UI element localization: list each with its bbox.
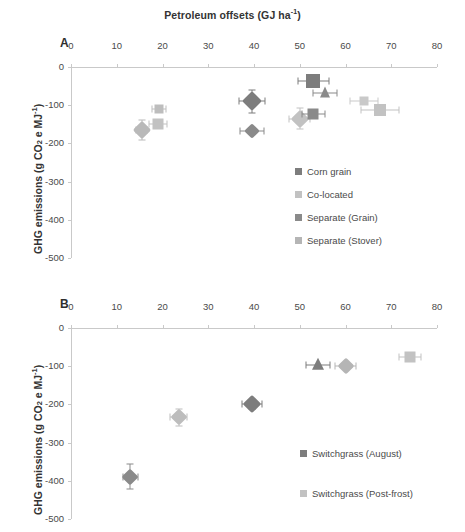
data-point-square[interactable] [308,108,319,119]
panel-a-x-tick-label: 60 [331,40,361,51]
legend-item[interactable]: Switchgrass (August) [300,433,413,473]
panel-a-legend: Corn grainCo-locatedSeparate (Grain)Sepa… [295,160,382,252]
data-point-square[interactable] [152,119,163,130]
panel-a-y-tick [68,143,71,144]
panel-b-y-axis [71,328,72,519]
panel-a-y-tick [68,220,71,221]
panel-a-y-axis [71,67,72,258]
panel-b-y-tick-label: -100 [30,360,64,371]
error-bar-cap [398,354,399,361]
data-point-square[interactable] [404,352,415,363]
panel-b-x-tick [117,325,118,328]
error-bar-cap [313,89,314,96]
panel-a-y-tick-label: -100 [30,99,64,110]
legend-swatch [295,168,302,175]
panel-a-x-tick [208,64,209,67]
panel-b-x-tick [163,325,164,328]
panel-b-x-tick-label: 10 [102,301,132,312]
panel-a-x-tick-label: 70 [376,40,406,51]
error-bar-cap [240,127,241,134]
data-point-diamond[interactable] [243,395,261,413]
panel-a-y-tick-label: -400 [30,214,64,225]
panel-b-y-tick-label: -500 [30,513,64,524]
error-bar-cap [335,362,336,369]
error-bar-cap [289,115,290,122]
legend-item[interactable]: Separate (Stover) [295,229,382,252]
legend-label: Switchgrass (August) [312,448,402,459]
panel-b-x-tick-label: 60 [331,301,361,312]
panel-a-y-tick [68,182,71,183]
panel-b-x-tick-label: 50 [285,301,315,312]
panel-a-y-tick-label: -300 [30,176,64,187]
error-bar-cap [148,121,149,128]
panel-a-x-axis [71,67,437,68]
panel-b-y-tick-label: 0 [30,322,64,333]
data-point-diamond[interactable] [170,409,187,426]
error-bar-cap [296,107,303,108]
legend-swatch [295,237,302,244]
data-point-square[interactable] [154,105,163,114]
error-bar-cap [127,463,134,464]
error-bar-cap [297,77,298,84]
data-point-triangle[interactable] [312,358,324,370]
panel-b-y-tick-label: -200 [30,398,64,409]
error-bar-cap [127,489,134,490]
data-point-square[interactable] [374,104,386,116]
panel-b-x-tick [437,325,438,328]
panel-b-x-tick [254,325,255,328]
data-point-diamond[interactable] [337,357,354,374]
panel-a: A Corn grainCo-locatedSeparate (Grain)Se… [0,0,465,268]
panel-a-y-tick [68,105,71,106]
error-bar-cap [248,112,255,113]
error-bar-cap [399,106,400,113]
panel-b-y-tick-label: -300 [30,437,64,448]
data-point-square[interactable] [359,96,368,105]
panel-b-x-tick [391,325,392,328]
panel-a-x-tick-label: 50 [285,40,315,51]
data-point-triangle[interactable] [320,86,330,97]
panel-a-y-tick-label: -500 [30,252,64,263]
legend-item[interactable]: Corn grain [295,160,382,183]
legend-label: Switchgrass (Post-frost) [312,488,413,499]
panel-b-y-tick [68,443,71,444]
panel-a-x-tick-label: 0 [56,40,86,51]
panel-b-y-tick [68,366,71,367]
panel-b-y-tick-label: -400 [30,475,64,486]
error-bar-cap [167,121,168,128]
panel-b: B Switchgrass (August)Switchgrass (Post-… [0,268,465,532]
legend-label: Corn grain [307,166,351,177]
legend-swatch [300,450,307,457]
panel-b-x-tick-label: 0 [56,301,86,312]
error-bar-cap [264,127,265,134]
data-point-diamond[interactable] [244,123,260,139]
legend-label: Separate (Stover) [307,235,382,246]
legend-item[interactable]: Separate (Grain) [295,206,382,229]
error-bar-cap [175,425,182,426]
legend-item[interactable]: Co-located [295,183,382,206]
panel-a-x-tick [391,64,392,67]
legend-label: Separate (Grain) [307,212,378,223]
data-point-square[interactable] [306,74,320,88]
error-bar-cap [296,129,303,130]
panel-a-x-tick-label: 10 [102,40,132,51]
error-bar-cap [166,106,167,113]
panel-a-x-tick [71,64,72,67]
y-title-mid: e MJ [32,375,44,401]
data-point-diamond[interactable] [122,468,139,485]
panel-b-x-tick [346,325,347,328]
panel-a-y-tick [68,67,71,68]
panel-b-y-tick [68,481,71,482]
panel-a-x-tick-label: 40 [239,40,269,51]
panel-b-x-tick-label: 80 [422,301,452,312]
legend-item[interactable]: Switchgrass (Post-frost) [300,473,413,513]
data-point-diamond[interactable] [242,91,262,111]
panel-b-x-tick-label: 30 [193,301,223,312]
panel-b-x-tick [208,325,209,328]
panel-b-x-tick-label: 40 [239,301,269,312]
error-bar-cap [329,77,330,84]
legend-swatch [295,191,302,198]
error-bar-cap [262,401,263,408]
panel-a-x-tick [254,64,255,67]
error-bar-cap [248,89,255,90]
error-bar-cap [360,106,361,113]
